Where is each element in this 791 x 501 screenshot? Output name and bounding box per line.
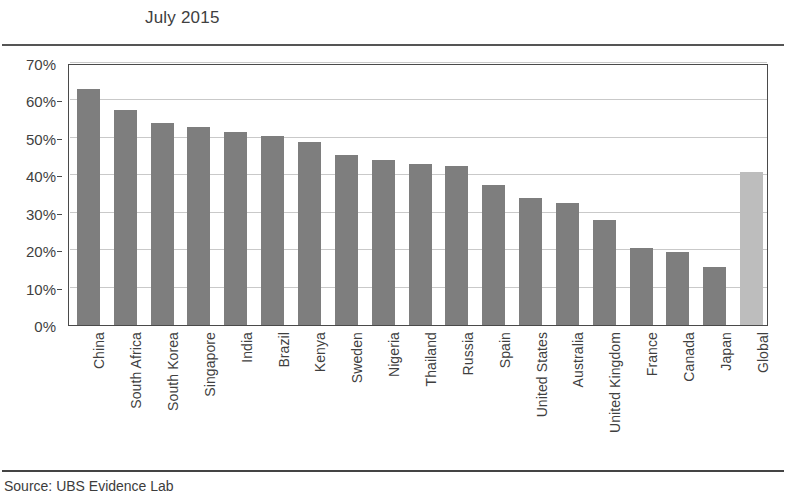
y-axis-tick-mark xyxy=(57,101,62,102)
x-axis-tick-label: South Africa xyxy=(128,332,144,409)
bar-india[interactable] xyxy=(224,132,247,325)
bar-russia[interactable] xyxy=(445,166,468,325)
y-axis-tick-label: 20% xyxy=(26,243,56,260)
footer-divider xyxy=(2,470,784,472)
bar-nigeria[interactable] xyxy=(372,160,395,325)
gridline xyxy=(70,62,767,63)
source-note: Source: UBS Evidence Lab xyxy=(4,478,174,494)
x-axis-tick-label: Singapore xyxy=(202,332,218,397)
y-axis-tick-mark xyxy=(57,176,62,177)
y-axis-tick-label: 50% xyxy=(26,130,56,147)
bar-france[interactable] xyxy=(630,248,653,325)
y-axis-tick-label: 60% xyxy=(26,93,56,110)
x-axis-tick-label: Sweden xyxy=(349,332,365,383)
y-axis-tick-label: 10% xyxy=(26,280,56,297)
bar-united-states[interactable] xyxy=(519,198,542,325)
chart-plot-area xyxy=(68,64,768,326)
x-axis: ChinaSouth AfricaSouth KoreaSingaporeInd… xyxy=(68,328,768,458)
x-axis-tick-label: Australia xyxy=(570,332,586,387)
x-axis-tick-label: Canada xyxy=(681,332,697,382)
y-axis-tick-label: 0% xyxy=(34,318,56,335)
bar-japan[interactable] xyxy=(703,267,726,325)
x-axis-tick-label: China xyxy=(91,332,107,369)
y-axis-tick-mark xyxy=(57,139,62,140)
gridlines-and-bars xyxy=(69,65,767,325)
x-axis-tick-label: Japan xyxy=(718,332,734,371)
y-axis-tick-label: 70% xyxy=(26,56,56,73)
x-axis-tick-label: Spain xyxy=(497,332,513,368)
x-axis-tick-label: South Korea xyxy=(165,332,181,411)
bar-south-africa[interactable] xyxy=(114,110,137,325)
y-axis-tick-label: 40% xyxy=(26,168,56,185)
y-axis-tick-mark xyxy=(57,251,62,252)
y-axis: 0%10%20%30%40%50%60%70% xyxy=(0,64,62,326)
x-axis-tick-label: Kenya xyxy=(312,332,328,372)
x-axis-tick-label: United States xyxy=(534,332,550,417)
x-axis-tick-label: Nigeria xyxy=(386,332,402,377)
x-axis-tick-label: India xyxy=(239,332,255,363)
x-axis-tick-label: Global xyxy=(755,332,771,373)
page-title: July 2015 xyxy=(145,8,220,28)
bar-kenya[interactable] xyxy=(298,142,321,325)
x-axis-tick-label: Russia xyxy=(460,332,476,375)
bar-thailand[interactable] xyxy=(409,164,432,325)
bar-united-kingdom[interactable] xyxy=(593,220,616,325)
bar-singapore[interactable] xyxy=(187,127,210,325)
bar-sweden[interactable] xyxy=(335,155,358,325)
bar-spain[interactable] xyxy=(482,185,505,325)
bar-canada[interactable] xyxy=(666,252,689,325)
y-axis-tick-label: 30% xyxy=(26,205,56,222)
bar-brazil[interactable] xyxy=(261,136,284,325)
bar-south-korea[interactable] xyxy=(151,123,174,325)
x-axis-tick-label: Brazil xyxy=(276,332,292,368)
x-axis-tick-label: France xyxy=(644,332,660,376)
bar-china[interactable] xyxy=(77,89,100,325)
x-axis-tick-label: Thailand xyxy=(423,332,439,387)
y-axis-tick-mark xyxy=(57,214,62,215)
y-axis-tick-mark xyxy=(57,289,62,290)
bar-global[interactable] xyxy=(740,172,763,325)
bar-series xyxy=(70,65,767,325)
bar-australia[interactable] xyxy=(556,203,579,325)
header-divider xyxy=(2,44,784,46)
x-axis-tick-label: United Kingdom xyxy=(607,332,623,433)
